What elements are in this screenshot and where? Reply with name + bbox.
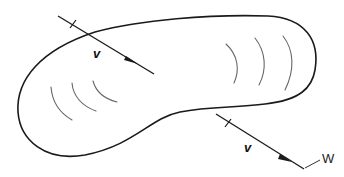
w-annotation: W bbox=[305, 151, 335, 168]
vector-label-bottom: v bbox=[244, 140, 252, 155]
velocity-vector-bottom: v bbox=[216, 114, 304, 169]
diagram-canvas: v v W bbox=[0, 0, 344, 177]
w-label: W bbox=[322, 151, 335, 166]
body-outline bbox=[18, 16, 316, 157]
vector-label-top: v bbox=[93, 46, 101, 61]
velocity-vector-top: v bbox=[58, 16, 154, 74]
hatch-marks-left bbox=[51, 81, 117, 120]
hatch-marks-right bbox=[226, 36, 292, 90]
